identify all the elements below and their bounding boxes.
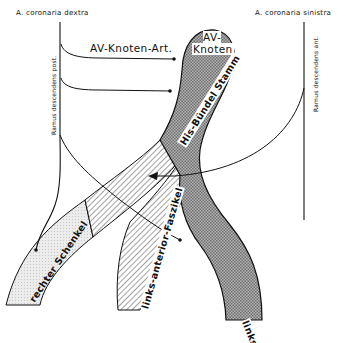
label-ramus-ant: Ramus descendens ant.: [312, 36, 319, 112]
av-knoten-art-branch-lower: [61, 78, 170, 91]
av-knoten-art-dot-lower: [168, 89, 172, 93]
label-av-knoten-art: AV-Knoten-Art.: [90, 42, 172, 54]
rechter-schenkel-band: [6, 200, 93, 305]
ramus-post-endpoint-dot: [34, 248, 38, 252]
posterior-supply-dot: [178, 238, 182, 242]
label-av-knoten-2: Knoten: [192, 43, 234, 55]
label-coronaria-sinistra: A. coronaria sinistra: [255, 9, 331, 17]
label-ramus-post: Ramus descendens post.: [50, 56, 57, 135]
label-av-knoten-1: AV-: [203, 31, 221, 43]
label-coronaria-dextra: A. coronaria dextra: [16, 9, 89, 17]
conduction-system-diagram: [0, 0, 346, 343]
av-knoten-art-dot-upper: [172, 57, 176, 61]
